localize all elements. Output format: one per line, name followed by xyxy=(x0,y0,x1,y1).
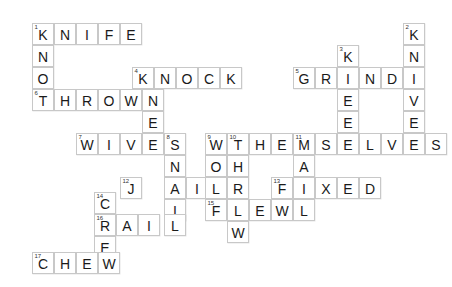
crossword-cell[interactable]: I xyxy=(293,177,315,199)
crossword-cell[interactable]: W xyxy=(98,252,120,274)
crossword-cell[interactable]: R xyxy=(315,67,337,89)
cell-letter: E xyxy=(121,24,141,44)
cell-letter: C xyxy=(199,68,219,88)
crossword-cell[interactable]: X xyxy=(315,177,337,199)
crossword-cell[interactable]: N xyxy=(32,45,54,67)
crossword-cell[interactable]: E xyxy=(76,252,98,274)
cell-letter: M xyxy=(294,134,314,154)
crossword-cell[interactable]: 6T xyxy=(32,89,54,111)
cell-letter: O xyxy=(206,156,226,176)
crossword-cell[interactable]: W xyxy=(271,199,293,221)
cell-letter: D xyxy=(382,68,402,88)
crossword-cell[interactable]: F xyxy=(98,23,120,45)
crossword-cell[interactable]: 4K xyxy=(132,67,154,89)
crossword-cell[interactable]: N xyxy=(164,155,186,177)
cell-letter: K xyxy=(133,68,153,88)
crossword-cell[interactable]: D xyxy=(381,67,403,89)
crossword-cell[interactable]: E xyxy=(142,111,164,133)
crossword-cell[interactable]: A xyxy=(164,177,186,199)
crossword-cell[interactable]: N xyxy=(54,23,76,45)
crossword-cell[interactable]: E xyxy=(120,23,142,45)
crossword-cell[interactable]: 5G xyxy=(293,67,315,89)
crossword-cell[interactable]: 16R xyxy=(94,214,116,236)
crossword-cell[interactable]: I xyxy=(403,67,425,89)
crossword-cell[interactable]: H xyxy=(54,89,76,111)
cell-letter: K xyxy=(33,24,53,44)
crossword-cell[interactable]: E xyxy=(403,111,425,133)
crossword-cell[interactable]: 3K xyxy=(337,45,359,67)
crossword-cell[interactable]: R xyxy=(227,177,249,199)
cell-letter: T xyxy=(33,90,53,110)
cell-letter: C xyxy=(33,253,53,273)
crossword-cell[interactable]: V xyxy=(120,133,142,155)
cell-letter: E xyxy=(338,112,358,132)
crossword-cell[interactable]: 11M xyxy=(293,133,315,155)
crossword-cell[interactable]: C xyxy=(198,67,220,89)
crossword-cell[interactable]: H xyxy=(54,252,76,274)
crossword-cell[interactable]: E xyxy=(337,133,359,155)
crossword-cell[interactable]: 9W xyxy=(205,133,227,155)
crossword-cell[interactable]: N xyxy=(154,67,176,89)
crossword-cell[interactable]: I xyxy=(76,23,98,45)
crossword-cell[interactable]: A xyxy=(116,214,138,236)
crossword-cell[interactable]: L xyxy=(205,177,227,199)
crossword-cell[interactable]: L xyxy=(293,199,315,221)
crossword-cell[interactable]: L xyxy=(164,214,186,236)
crossword-cell[interactable]: N xyxy=(359,67,381,89)
crossword-cell[interactable]: 10T xyxy=(227,133,249,155)
crossword-cell[interactable]: D xyxy=(359,177,381,199)
crossword-cell[interactable]: H xyxy=(249,133,271,155)
crossword-cell[interactable]: W xyxy=(227,221,249,243)
crossword-cell[interactable]: W xyxy=(120,89,142,111)
crossword-cell[interactable]: 12J xyxy=(120,177,142,199)
crossword-cell[interactable]: A xyxy=(293,155,315,177)
crossword-cell[interactable]: V xyxy=(381,133,403,155)
cell-letter: E xyxy=(338,178,358,198)
cell-letter: L xyxy=(228,200,248,220)
crossword-cell[interactable]: S xyxy=(425,133,447,155)
crossword-cell[interactable]: N xyxy=(142,89,164,111)
cell-letter: I xyxy=(139,215,159,235)
crossword-cell[interactable]: V xyxy=(403,89,425,111)
crossword-cell[interactable]: 17C xyxy=(32,252,54,274)
crossword-cell[interactable]: E xyxy=(337,177,359,199)
crossword-cell[interactable]: I xyxy=(138,214,160,236)
crossword-cell[interactable]: E xyxy=(249,199,271,221)
crossword-cell[interactable]: 1K xyxy=(32,23,54,45)
cell-letter: T xyxy=(228,134,248,154)
crossword-cell[interactable]: R xyxy=(76,89,98,111)
crossword-cell[interactable]: K xyxy=(220,67,242,89)
crossword-cell[interactable]: O xyxy=(32,67,54,89)
cell-letter: O xyxy=(33,68,53,88)
cell-letter: O xyxy=(99,90,119,110)
cell-letter: E xyxy=(77,253,97,273)
crossword-cell[interactable]: I xyxy=(337,67,359,89)
crossword-cell[interactable]: E xyxy=(403,133,425,155)
cell-letter: G xyxy=(294,68,314,88)
cell-letter: R xyxy=(95,215,115,235)
crossword-cell[interactable]: O xyxy=(98,89,120,111)
crossword-cell[interactable]: O xyxy=(205,155,227,177)
cell-letter: H xyxy=(250,134,270,154)
crossword-cell[interactable]: L xyxy=(227,199,249,221)
crossword-cell[interactable]: O xyxy=(176,67,198,89)
crossword-cell[interactable]: S xyxy=(315,133,337,155)
crossword-cell[interactable]: I xyxy=(98,133,120,155)
crossword-cell[interactable]: E xyxy=(142,133,164,155)
crossword-cell[interactable]: 8S xyxy=(164,133,186,155)
cell-letter: H xyxy=(55,90,75,110)
crossword-cell[interactable]: H xyxy=(227,155,249,177)
crossword-cell[interactable]: 15F xyxy=(205,199,227,221)
crossword-cell[interactable]: 14C xyxy=(94,192,116,214)
crossword-cell[interactable]: 2K xyxy=(403,23,425,45)
cell-letter: C xyxy=(95,193,115,213)
crossword-cell[interactable]: 7W xyxy=(76,133,98,155)
crossword-cell[interactable]: E xyxy=(337,111,359,133)
cell-letter: V xyxy=(382,134,402,154)
crossword-cell[interactable]: N xyxy=(403,45,425,67)
cell-letter: S xyxy=(426,134,446,154)
crossword-cell[interactable]: 13F xyxy=(271,177,293,199)
crossword-cell[interactable]: E xyxy=(271,133,293,155)
crossword-cell[interactable]: E xyxy=(337,89,359,111)
crossword-cell[interactable]: L xyxy=(359,133,381,155)
